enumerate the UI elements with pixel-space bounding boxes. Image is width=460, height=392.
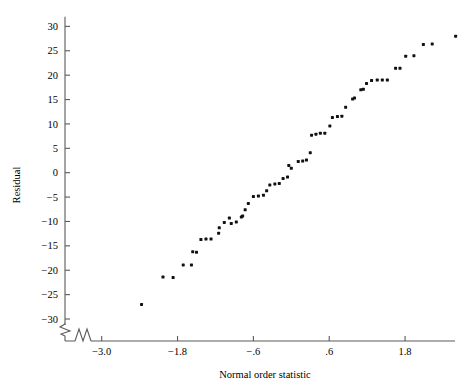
data-point: [223, 221, 226, 224]
y-tick-label: −20: [42, 265, 58, 276]
data-point: [262, 194, 265, 197]
x-tick-label: 1.8: [398, 346, 411, 357]
x-axis-title: Normal order statistic: [219, 369, 311, 380]
data-point: [340, 115, 343, 118]
y-tick-label: −30: [42, 314, 58, 325]
data-point: [228, 217, 231, 220]
y-tick-label: −5: [47, 192, 58, 203]
data-point: [314, 133, 317, 136]
data-point: [412, 54, 415, 57]
data-point: [386, 79, 389, 82]
data-point: [399, 67, 402, 70]
x-axis-break-icon: [75, 329, 91, 341]
y-tick-label: 15: [48, 94, 59, 105]
data-point: [172, 276, 175, 279]
data-point: [282, 177, 285, 180]
y-tick-label: 25: [48, 45, 59, 56]
data-point: [422, 43, 425, 46]
data-point: [305, 159, 308, 162]
data-point: [287, 164, 290, 167]
x-tick-label: −1.8: [168, 346, 187, 357]
data-point: [328, 124, 331, 127]
x-tick-label: −3.0: [92, 346, 111, 357]
x-axis-ticks: −3.0−1.8−.6.61.8: [92, 336, 411, 357]
data-point: [353, 97, 356, 100]
data-point: [309, 151, 312, 154]
data-point: [244, 208, 247, 211]
data-point: [323, 132, 326, 135]
data-point: [218, 226, 221, 229]
y-axis-break-icon: [60, 324, 70, 341]
data-point: [190, 263, 193, 266]
data-point: [162, 276, 165, 279]
data-point: [319, 132, 322, 135]
data-point: [204, 238, 207, 241]
data-point: [247, 202, 250, 205]
x-tick-label: −.6: [246, 346, 260, 357]
data-point: [217, 232, 220, 235]
data-point: [252, 195, 255, 198]
data-point: [344, 106, 347, 109]
data-point: [199, 238, 202, 241]
qq-plot-figure: 302520151050−5−10−15−20−25−30 −3.0−1.8−.…: [0, 0, 460, 392]
data-point: [454, 35, 457, 38]
data-point: [376, 79, 379, 82]
y-tick-label: −15: [42, 240, 58, 251]
data-point: [365, 82, 368, 85]
y-tick-label: −25: [42, 289, 58, 300]
data-point: [290, 167, 293, 170]
y-tick-label: 0: [53, 167, 58, 178]
data-point: [370, 79, 373, 82]
y-tick-label: 10: [48, 119, 59, 130]
data-point: [210, 238, 213, 241]
data-point: [394, 67, 397, 70]
y-tick-label: −10: [42, 216, 58, 227]
data-point: [362, 88, 365, 91]
y-tick-label: 20: [48, 70, 59, 81]
data-point: [191, 250, 194, 253]
data-point: [310, 134, 313, 137]
data-point: [235, 220, 238, 223]
data-point: [140, 303, 143, 306]
data-point: [230, 222, 233, 225]
data-point: [182, 263, 185, 266]
scatter-plot-svg: 302520151050−5−10−15−20−25−30 −3.0−1.8−.…: [0, 0, 460, 392]
data-point: [265, 189, 268, 192]
data-point: [268, 183, 271, 186]
data-point: [297, 160, 300, 163]
data-point: [404, 55, 407, 58]
data-point: [273, 182, 276, 185]
x-tick-label: .6: [325, 346, 333, 357]
data-point: [331, 116, 334, 119]
data-point: [286, 176, 289, 179]
data-point: [301, 159, 304, 162]
data-point: [431, 42, 434, 45]
y-tick-label: 5: [53, 143, 58, 154]
data-point: [195, 251, 198, 254]
y-axis-ticks: 302520151050−5−10−15−20−25−30: [42, 21, 70, 325]
data-point: [257, 195, 260, 198]
data-point: [336, 115, 339, 118]
y-axis-title: Residual: [11, 167, 22, 204]
data-points: [140, 35, 457, 306]
data-point: [241, 215, 244, 218]
data-point: [381, 79, 384, 82]
data-point: [278, 182, 281, 185]
y-tick-label: 30: [48, 21, 59, 32]
